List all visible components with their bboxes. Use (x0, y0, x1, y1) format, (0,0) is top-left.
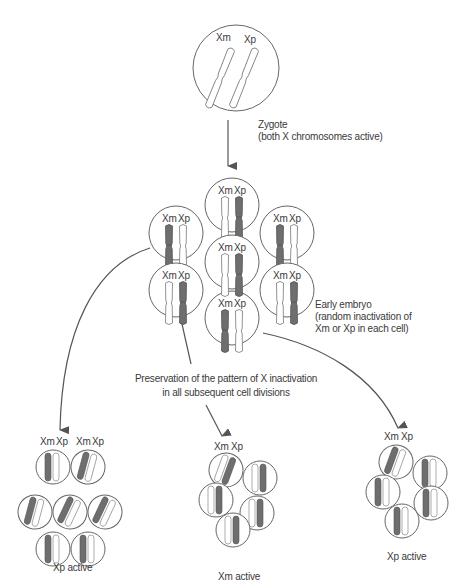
embryo-ur-xm-label: Xm (273, 213, 288, 225)
middle-clone-caption: Xm active (218, 571, 260, 583)
zygote-cell (193, 25, 279, 111)
right-clone-xp-label: Xp (401, 431, 413, 443)
embryo-top-xm-label: Xm (218, 185, 233, 197)
embryo-center-xm-label: Xm (218, 242, 233, 254)
x-inactivation-diagram (0, 0, 476, 587)
left-clone-xp-label-1: Xp (56, 436, 68, 448)
middle-clone-xp-label: Xp (231, 441, 243, 453)
middle-clone-cells (199, 448, 277, 547)
right-clone-cells (366, 440, 448, 538)
left-lineage-arrow (60, 248, 150, 430)
zygote-xp-label: Xp (244, 34, 256, 46)
left-clone-xp-label-2: Xp (92, 436, 104, 448)
embryo-bottom-xp-label: Xp (234, 298, 246, 310)
embryo-center-xp-label: Xp (234, 242, 246, 254)
embryo-top-xp-label: Xp (234, 185, 246, 197)
zygote-caption-line2: (both X chromosomes active) (258, 131, 383, 143)
preservation-caption-line2: in all subsequent cell divisions (162, 387, 290, 399)
preservation-caption-line1: Preservation of the pattern of X inactiv… (135, 373, 317, 385)
zygote-xm-label: Xm (216, 32, 231, 44)
early-embryo (149, 178, 314, 353)
embryo-ul-xm-label: Xm (162, 213, 177, 225)
middle-lineage-arrow-top (182, 324, 191, 364)
embryo-ur-xp-label: Xp (289, 213, 301, 225)
embryo-caption-line1: Early embryo (315, 299, 372, 311)
left-clone-caption: Xp active (53, 562, 92, 574)
left-clone-xm-label-1: Xm (40, 436, 55, 448)
embryo-ll-xm-label: Xm (162, 270, 177, 282)
embryo-caption-line2: (random inactivation of (315, 311, 412, 323)
right-clone-xm-label: Xm (384, 431, 399, 443)
left-clone-cells (14, 446, 127, 566)
middle-clone-xm-label: Xm (214, 441, 229, 453)
right-clone-caption: Xp active (387, 551, 426, 563)
embryo-lr-xp-label: Xp (289, 270, 301, 282)
embryo-bottom-xm-label: Xm (218, 298, 233, 310)
embryo-ll-xp-label: Xp (178, 270, 190, 282)
embryo-ul-xp-label: Xp (178, 213, 190, 225)
middle-lineage-arrow-bottom (206, 405, 222, 436)
embryo-lr-xm-label: Xm (273, 270, 288, 282)
zygote-caption-line1: Zygote (258, 119, 287, 131)
embryo-caption-line3: Xm or Xp in each cell) (315, 323, 408, 335)
left-clone-xm-label-2: Xm (76, 436, 91, 448)
